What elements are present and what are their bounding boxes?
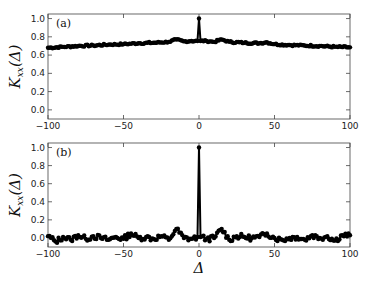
y-tick-label: 0.8 [31, 161, 46, 171]
x-tick-label: −100 [36, 249, 61, 259]
x-tick-label: −100 [36, 121, 61, 131]
y-tick-label: 0.0 [31, 105, 46, 115]
data-point [70, 239, 74, 243]
y-tick-label: 1.0 [31, 143, 46, 153]
y-axis-label: Kxx(Δ) [6, 44, 25, 89]
panel-label: (a) [56, 17, 71, 30]
data-point [222, 230, 226, 234]
data-point [197, 16, 201, 20]
data-point [176, 226, 180, 230]
data-point [337, 237, 341, 241]
y-tick-label: 0.2 [31, 215, 45, 225]
y-tick-label: 1.0 [31, 14, 46, 24]
panel-label: (b) [56, 146, 72, 159]
y-tick-label: 0.2 [31, 87, 45, 97]
chart-figure: 0.00.20.40.60.81.0−100−50050100(a)Kxx(Δ)… [0, 0, 372, 282]
data-point [94, 237, 98, 241]
y-axis-label: Kxx(Δ) [6, 173, 25, 218]
x-tick-label: 0 [196, 121, 202, 131]
x-tick-label: 100 [341, 121, 358, 131]
y-tick-label: 0.4 [31, 68, 46, 78]
panel-b: 0.00.20.40.60.81.0−100−50050100(b)Kxx(Δ)… [6, 143, 359, 277]
x-axis-label: Δ [193, 259, 205, 277]
series-line [48, 148, 350, 243]
y-tick-label: 0.6 [31, 50, 46, 60]
x-tick-label: 50 [269, 249, 281, 259]
x-tick-label: 50 [269, 121, 281, 131]
data-point [207, 239, 211, 243]
data-point [348, 233, 352, 237]
data-point [230, 238, 234, 242]
panel-a: 0.00.20.40.60.81.0−100−50050100(a)Kxx(Δ) [6, 14, 359, 131]
x-tick-label: −50 [114, 121, 133, 131]
data-point [197, 145, 201, 149]
y-tick-label: 0.8 [31, 32, 46, 42]
data-point [348, 45, 352, 49]
y-tick-label: 0.4 [31, 197, 46, 207]
x-tick-label: 100 [341, 249, 358, 259]
x-tick-label: 0 [196, 249, 202, 259]
data-point [201, 233, 205, 237]
x-tick-label: −50 [114, 249, 133, 259]
y-tick-label: 0.0 [31, 233, 46, 243]
y-tick-label: 0.6 [31, 179, 46, 189]
